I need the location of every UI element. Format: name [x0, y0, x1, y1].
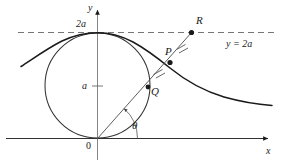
point-P-label: P [165, 46, 172, 57]
point-Q-label: Q [151, 86, 159, 97]
point-R-marker [189, 30, 194, 35]
origin-label: 0 [86, 141, 91, 151]
tick-marks-PR [177, 45, 189, 54]
x-axis-label: x [266, 146, 270, 156]
point-Q-marker [146, 85, 151, 90]
y-tick-2a-label: 2a [76, 19, 86, 29]
diagram-canvas [0, 0, 285, 167]
asymptote-equation-label: y = 2a [226, 39, 252, 49]
y-tick-a-label: a [82, 81, 87, 91]
figure-witch-of-agnesi: y x 0 2a a y = 2a R P Q θ [0, 0, 285, 167]
point-P-marker [167, 60, 172, 65]
y-axis-label: y [88, 3, 92, 13]
angle-theta-label: θ [132, 120, 137, 131]
point-R-label: R [196, 15, 203, 26]
tick-marks-QP [154, 70, 166, 79]
